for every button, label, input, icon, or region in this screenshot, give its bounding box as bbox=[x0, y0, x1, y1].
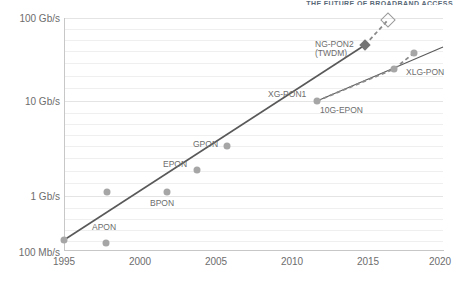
data-point-xlgpon-mid bbox=[391, 66, 398, 73]
point-label-xg-pon1: XG-PON1 bbox=[268, 90, 306, 99]
point-label-gpon: GPON bbox=[193, 140, 218, 149]
bandwidth-evolution-chart: THE FUTURE OF BROADBAND ACCESS 100 Gb/s … bbox=[0, 0, 459, 287]
data-point-1995 bbox=[61, 237, 68, 244]
point-label-ng-pon2: NG-PON2 (TWDM) bbox=[315, 40, 354, 58]
point-label-10g-epon: 10G-EPON bbox=[320, 106, 363, 115]
point-label-epon: EPON bbox=[163, 160, 187, 169]
data-point-gpon bbox=[224, 143, 231, 150]
data-point-epon bbox=[194, 167, 201, 174]
xlgpon-projection-dash bbox=[317, 53, 414, 101]
data-point-xlg-pon bbox=[411, 50, 418, 57]
data-point-xg-pon1 bbox=[314, 98, 321, 105]
point-label-ng-pon2-line2: (TWDM) bbox=[315, 49, 354, 58]
point-label-xlg-pon: XLG-PON bbox=[406, 68, 444, 77]
data-point-bpon bbox=[164, 189, 171, 196]
point-label-apon: APON bbox=[92, 223, 116, 232]
point-label-bpon: BPON bbox=[150, 199, 174, 208]
data-point-apon bbox=[103, 240, 110, 247]
data-point-unlabeled-1998 bbox=[104, 189, 111, 196]
